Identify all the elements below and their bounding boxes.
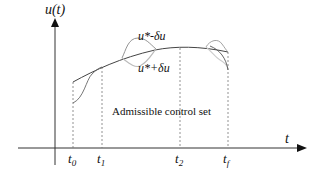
y-axis-label: u(t): [45, 2, 66, 18]
tf-label: tf: [223, 151, 231, 168]
x-axis-arrow-icon: [297, 144, 307, 152]
admissible-set-label: Admissible control set: [112, 105, 211, 117]
t0-label: t0: [68, 151, 77, 168]
y-axis-arrow-icon: [51, 18, 59, 27]
time-tick-labels: t0 t1 t2 tf: [68, 151, 231, 168]
initial-perturbation-curve: [73, 67, 102, 103]
t2-label: t2: [175, 151, 184, 168]
minus-perturbation-label: u*-δu: [138, 29, 166, 43]
t1-label: t1: [97, 151, 105, 168]
diagram-canvas: u(t) t u*-δu u*+δu Admissible control se…: [0, 0, 319, 175]
plus-perturbation-label: u*+δu: [138, 61, 170, 75]
x-axis-label: t: [285, 131, 290, 146]
